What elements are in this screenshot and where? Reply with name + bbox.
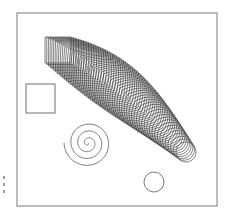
margin-mark bbox=[3, 190, 5, 193]
source-square-shape bbox=[26, 84, 55, 113]
square-to-circle-morph-sequence bbox=[45, 37, 196, 162]
morph-diagram bbox=[0, 0, 230, 213]
target-circle-shape bbox=[144, 172, 164, 192]
spiral-path-shape bbox=[64, 124, 109, 165]
margin-mark bbox=[3, 176, 5, 179]
figure-stage bbox=[0, 0, 230, 213]
margin-mark bbox=[3, 183, 5, 186]
